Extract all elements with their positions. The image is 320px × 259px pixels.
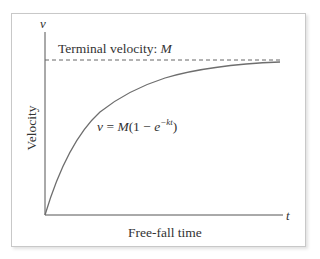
- equation-m: M: [117, 119, 128, 134]
- terminal-symbol: M: [161, 41, 172, 56]
- terminal-velocity-label: Terminal velocity: M: [58, 42, 172, 56]
- x-axis-label: Free-fall time: [128, 226, 202, 240]
- equation-close: ): [173, 119, 178, 134]
- y-axis-symbol: v: [40, 17, 46, 30]
- equation-open: (1 −: [129, 119, 155, 134]
- velocity-curve: [45, 62, 280, 215]
- equation-equals: =: [103, 119, 117, 134]
- terminal-prefix: Terminal velocity:: [58, 41, 161, 56]
- y-axis-label: Velocity: [25, 106, 39, 151]
- x-axis-symbol: t: [286, 209, 290, 222]
- equation-exponent: −kt: [160, 117, 173, 127]
- velocity-equation: v = M(1 − e−kt): [97, 120, 177, 134]
